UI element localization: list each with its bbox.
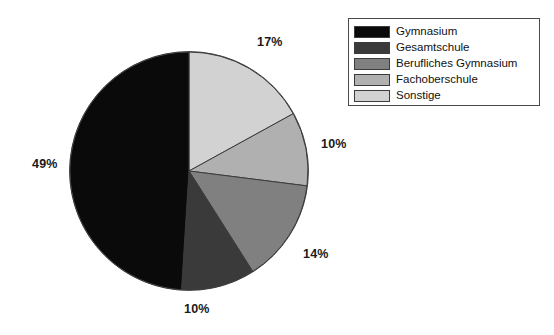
legend-label-gesamtschule: Gesamtschule — [396, 41, 470, 54]
legend-swatch-berufliches-gymnasium — [354, 58, 390, 70]
pie-slice-gymnasium — [70, 52, 189, 290]
legend-swatch-sonstige — [354, 90, 390, 102]
legend-swatch-gesamtschule — [354, 42, 390, 54]
pie-chart-graphic — [69, 51, 309, 291]
pie-label-gesamtschule: 10% — [184, 302, 210, 316]
pie-svg — [69, 51, 309, 291]
legend-swatch-fachoberschule — [354, 74, 390, 86]
legend-item-berufliches-gymnasium: Berufliches Gymnasium — [354, 56, 534, 71]
legend: Gymnasium Gesamtschule Berufliches Gymna… — [348, 18, 540, 106]
pie-slice-group — [70, 52, 308, 290]
legend-label-fachoberschule: Fachoberschule — [396, 73, 478, 86]
legend-item-fachoberschule: Fachoberschule — [354, 72, 534, 87]
pie-chart-figure: 17% 10% 14% 10% 49% Gymnasium Gesamtschu… — [0, 0, 554, 335]
pie-label-sonstige: 17% — [257, 35, 283, 49]
pie-label-berufliches-gymnasium: 14% — [303, 247, 329, 261]
legend-item-gymnasium: Gymnasium — [354, 24, 534, 39]
legend-item-gesamtschule: Gesamtschule — [354, 40, 534, 55]
legend-item-sonstige: Sonstige — [354, 88, 534, 103]
legend-label-berufliches-gymnasium: Berufliches Gymnasium — [396, 57, 517, 70]
pie-label-gymnasium: 49% — [32, 157, 58, 171]
pie-label-fachoberschule: 10% — [321, 137, 347, 151]
legend-swatch-gymnasium — [354, 26, 390, 38]
legend-label-sonstige: Sonstige — [396, 89, 441, 102]
legend-label-gymnasium: Gymnasium — [396, 25, 457, 38]
